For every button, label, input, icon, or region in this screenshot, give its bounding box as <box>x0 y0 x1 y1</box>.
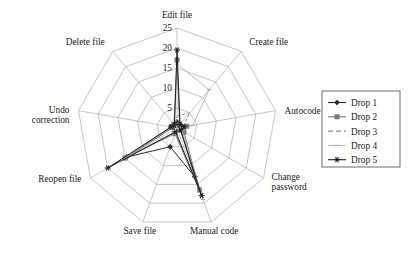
radar-chart-svg: 510152025 Edit fileCreate fileAutocodeCh… <box>0 0 411 255</box>
tick-labels-layer: 510152025 <box>163 23 173 113</box>
axis-label-autocode: Autocode <box>284 106 320 116</box>
axis-label-manual-code: Manual code <box>190 226 238 236</box>
axis-label-undo-correction: Undocorrection <box>32 105 70 125</box>
legend-label: Drop 3 <box>351 127 377 137</box>
radial-tick-label: 10 <box>163 83 173 93</box>
legend-label: Drop 1 <box>351 98 377 108</box>
axis-label-save-file: Save file <box>123 226 156 236</box>
axis-label-create-file: Create file <box>249 37 288 47</box>
legend-label: Drop 4 <box>351 141 377 151</box>
data-point-marker <box>335 115 339 119</box>
axis-label-reopen-file: Reopen file <box>38 174 81 184</box>
radial-tick-label: 25 <box>163 23 173 33</box>
axis-label-edit-file: Edit file <box>162 10 192 20</box>
axis-label-change-password: Changepassword <box>272 172 307 192</box>
radial-tick-label: 20 <box>163 43 173 53</box>
radial-tick-label: 15 <box>163 63 173 73</box>
axis-spoke <box>79 111 177 128</box>
legend: Drop 1Drop 2Drop 3Drop 4Drop 5 <box>322 91 400 167</box>
axis-label-delete-file: Delete file <box>66 37 105 47</box>
radial-tick-label: 5 <box>167 103 172 113</box>
legend-label: Drop 2 <box>351 112 377 122</box>
series-5 <box>105 47 205 198</box>
legend-label: Drop 5 <box>351 155 377 165</box>
radar-chart-figure: 510152025 Edit fileCreate fileAutocodeCh… <box>0 0 411 255</box>
